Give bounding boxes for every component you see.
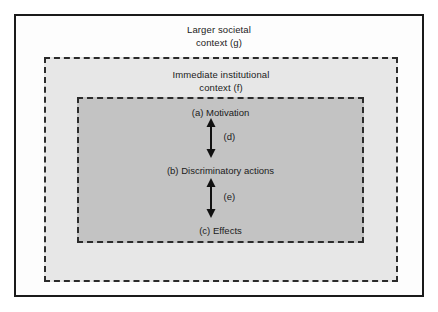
arrow-d-label: (d)	[224, 131, 236, 142]
arrow-e-label: (e)	[224, 191, 236, 202]
societal-context-label-line2: context (g)	[16, 37, 422, 50]
outer-frame: Larger societal context (g) Immediate in…	[14, 14, 424, 297]
institutional-context-label-line2: context (f)	[46, 82, 396, 95]
node-discriminatory-actions: (b) Discriminatory actions	[79, 165, 362, 177]
societal-context-caption: Larger societal context (g)	[16, 24, 422, 49]
node-effects: (c) Effects	[79, 225, 362, 237]
arrow-d: (d)	[202, 118, 240, 158]
node-effects-label: (c) Effects	[199, 225, 242, 236]
institutional-context-box: (a) Motivation (d) (b) Discriminatory ac…	[77, 97, 364, 243]
institutional-context-caption: Immediate institutional context (f)	[46, 69, 396, 94]
institutional-context-label-line1: Immediate institutional	[46, 69, 396, 82]
societal-context-box: Immediate institutional context (f) (a) …	[44, 57, 398, 282]
societal-context-label-line1: Larger societal	[16, 24, 422, 37]
arrow-e: (e)	[202, 178, 240, 218]
figure-canvas: Larger societal context (g) Immediate in…	[0, 0, 438, 312]
node-motivation-label: (a) Motivation	[192, 107, 250, 118]
node-discriminatory-actions-label: (b) Discriminatory actions	[167, 165, 274, 176]
